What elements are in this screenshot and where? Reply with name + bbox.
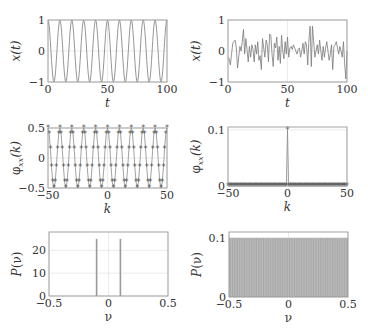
tick-labels: −0.500.501020 [32, 244, 177, 310]
y-axis-label: P(ν) [10, 252, 24, 278]
svg-text:*: * [90, 163, 94, 172]
svg-text:*: * [160, 178, 164, 187]
svg-text:*: * [53, 178, 57, 187]
x-tick-label: 100 [157, 83, 178, 96]
data-series [229, 238, 348, 297]
subplot-top-left: 050100−101tx(t) [9, 14, 178, 110]
x-axis-label: ν [285, 311, 292, 325]
svg-text:*: * [113, 178, 117, 187]
svg-text:*: * [125, 178, 129, 187]
x-axis-label: t [285, 96, 290, 110]
svg-text:*: * [71, 130, 75, 139]
x-tick-label: 50 [101, 83, 115, 96]
svg-text:*: * [139, 145, 143, 154]
svg-text:*: * [59, 130, 63, 139]
svg-text:*: * [60, 145, 64, 154]
svg-text:*: * [72, 145, 76, 154]
svg-text:*: * [108, 145, 112, 154]
svg-text:*: * [151, 145, 155, 154]
svg-text:*: * [78, 163, 82, 172]
svg-text:*: * [102, 163, 106, 172]
svg-text:*: * [107, 130, 111, 139]
x-tick-label: 0 [285, 298, 292, 311]
svg-text:*: * [138, 163, 142, 172]
y-axis-label: φxx(k) [9, 141, 25, 175]
svg-text:*: * [77, 178, 81, 187]
subplot-middle-right: ****************************************… [189, 124, 354, 214]
svg-text:*: * [126, 163, 130, 172]
x-tick-label: 0 [225, 83, 232, 96]
svg-text:*: * [103, 145, 107, 154]
y-tick-label: 20 [32, 244, 46, 257]
x-tick-label: 50 [281, 83, 295, 96]
subplot-bottom-right: −0.500.500.1νP(ν) [190, 232, 357, 325]
svg-text:*: * [150, 163, 154, 172]
grid [228, 20, 347, 82]
y-tick-label: −1 [29, 76, 45, 89]
svg-text:*: * [133, 163, 137, 172]
svg-text:*: * [97, 163, 101, 172]
x-axis-label: ν [105, 310, 112, 324]
figure: 050100−101tx(t)050100−101tx(t)**********… [0, 0, 368, 333]
y-tick-label: 0 [218, 45, 225, 58]
y-axis-label: x(t) [189, 40, 203, 61]
svg-text:*: * [84, 145, 88, 154]
subplot-middle-left: ****************************************… [9, 122, 174, 216]
x-tick-label: 0 [45, 83, 52, 96]
svg-text:*: * [161, 163, 165, 172]
y-tick-label: 0 [38, 45, 45, 58]
x-axis-label: k [284, 200, 291, 214]
svg-text:*: * [109, 163, 113, 172]
y-tick-label: 0 [219, 291, 226, 304]
subplot-top-right: 050100−101tx(t) [189, 14, 358, 110]
svg-text:*: * [120, 145, 124, 154]
grid [49, 232, 168, 296]
y-tick-label: 1 [38, 14, 45, 27]
y-axis-label: φxx(k) [189, 139, 205, 173]
x-tick-label: 50 [160, 189, 174, 202]
svg-text:*: * [56, 145, 60, 154]
svg-text:*: * [119, 130, 123, 139]
svg-text:*: * [121, 163, 125, 172]
y-tick-label: 0.1 [208, 124, 226, 137]
svg-text:*: * [115, 145, 119, 154]
svg-text:*: * [85, 163, 89, 172]
svg-text:*: * [61, 163, 65, 172]
svg-text:*: * [155, 145, 159, 154]
svg-text:*: * [91, 145, 95, 154]
y-tick-label: −0.5 [18, 182, 45, 195]
svg-text:*: * [96, 145, 100, 154]
svg-text:*: * [163, 145, 167, 154]
x-tick-label: 0.5 [339, 298, 357, 311]
y-tick-label: 10 [32, 267, 46, 280]
svg-text:*: * [73, 163, 77, 172]
svg-text:*: * [145, 163, 149, 172]
y-tick-label: 0 [39, 290, 46, 303]
svg-text:*: * [83, 130, 87, 139]
svg-text:*: * [127, 145, 131, 154]
svg-text:*: * [132, 145, 136, 154]
svg-text:*: * [148, 178, 152, 187]
svg-text:*: * [136, 178, 140, 187]
y-tick-label: 0 [218, 180, 225, 193]
x-tick-label: 0.5 [159, 297, 177, 310]
svg-text:*: * [89, 178, 93, 187]
y-axis-label: x(t) [9, 40, 23, 61]
svg-text:*: * [142, 130, 146, 139]
svg-text:*: * [95, 130, 99, 139]
grid [48, 20, 167, 82]
x-axis-label: k [104, 202, 111, 216]
subplot-bottom-left: −0.500.501020νP(ν) [10, 232, 177, 324]
svg-text:*: * [50, 163, 54, 172]
svg-text:*: * [130, 130, 134, 139]
svg-text:*: * [66, 163, 70, 172]
svg-text:*: * [114, 163, 118, 172]
svg-text:*: * [101, 178, 105, 187]
svg-text:*: * [48, 145, 52, 154]
x-tick-label: 0 [284, 187, 291, 200]
x-tick-label: 100 [337, 83, 358, 96]
x-axis-label: t [105, 96, 110, 110]
svg-text:*: * [67, 145, 71, 154]
svg-text:*: * [79, 145, 83, 154]
svg-text:*: * [54, 163, 58, 172]
